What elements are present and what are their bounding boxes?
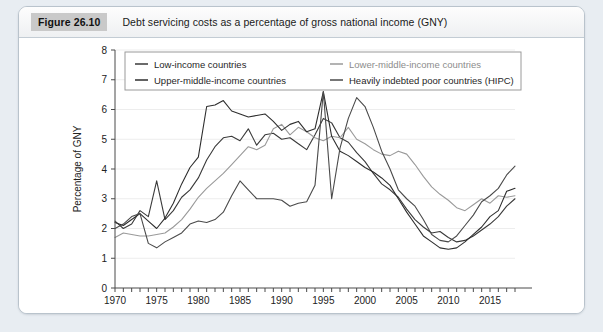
legend-label-3: Heavily indebted poor countries (HIPC) [349,75,514,86]
x-tick-label: 1995 [312,295,335,306]
x-tick-label: 1970 [104,295,127,306]
x-tick-label: 2010 [437,295,460,306]
legend-label-1: Lower-middle-income countries [349,59,481,70]
y-tick-label: 6 [101,104,107,115]
x-tick-label: 1990 [271,295,294,306]
series-lines [115,92,515,250]
y-tick-label: 2 [101,223,107,234]
figure-header: Figure 26.10 Debt servicing costs as a p… [19,7,584,38]
x-tick-label: 1980 [187,295,210,306]
x-tick-label: 2005 [396,295,419,306]
y-axis-title: Percentage of GNY [72,125,83,212]
figure-title: Debt servicing costs as a percentage of … [122,16,447,28]
chart-area: 012345678 197019751980198519901995200020… [19,38,584,314]
y-tick-label: 0 [101,283,107,294]
x-tick-label: 1975 [146,295,169,306]
y-tick-label: 7 [101,74,107,85]
legend-label-0: Low-income countries [154,59,247,70]
figure-number-badge: Figure 26.10 [31,13,107,31]
y-axis-title-text: Percentage of GNY [72,125,83,212]
y-tick-label: 4 [101,164,107,175]
chart-legend: Low-income countriesLower-middle-income … [125,52,521,90]
y-tick-label: 8 [101,45,107,56]
y-tick-label: 1 [101,253,107,264]
line-chart: 012345678 197019751980198519901995200020… [19,38,585,314]
x-tick-labels: 1970197519801985199019952000200520102015 [104,295,502,306]
y-tick-labels: 012345678 [101,45,107,294]
legend-label-2: Upper-middle-income countries [154,75,286,86]
figure-card: Figure 26.10 Debt servicing costs as a p… [18,6,585,314]
x-tick-label: 2000 [354,295,377,306]
x-tick-label: 1985 [229,295,252,306]
y-tick-label: 5 [101,134,107,145]
y-tick-label: 3 [101,193,107,204]
series-line-3 [115,92,515,248]
x-tick-label: 2015 [479,295,502,306]
